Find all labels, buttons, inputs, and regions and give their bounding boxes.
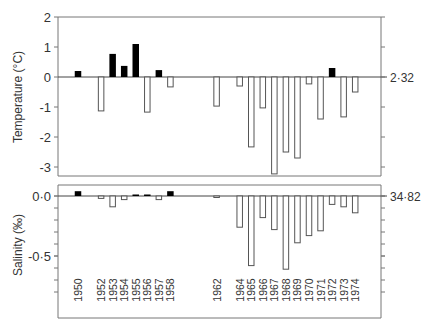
bar-positive-1955 <box>133 195 140 197</box>
bar-positive-1958 <box>167 191 174 196</box>
year-label-1970: 1970 <box>303 278 315 302</box>
bar-negative-1965 <box>249 196 255 266</box>
y-tick-label: -3 <box>39 160 51 175</box>
bar-negative-1954 <box>121 196 127 200</box>
y-tick-label: 0 <box>44 70 51 85</box>
bar-negative-1965 <box>249 77 255 147</box>
temperature-reference-value: 2·32 <box>390 71 414 85</box>
bar-negative-1956 <box>145 77 151 112</box>
bar-negative-1967 <box>272 196 278 230</box>
bar-negative-1973 <box>341 77 347 117</box>
bar-negative-1952 <box>98 196 104 198</box>
bar-negative-1972 <box>329 196 335 204</box>
bar-negative-1971 <box>318 77 324 119</box>
bar-negative-1952 <box>98 77 104 111</box>
y-tick-label: -0·5 <box>28 249 51 264</box>
bar-negative-1964 <box>237 77 243 86</box>
bar-positive-1955 <box>133 44 140 77</box>
y-tick-label: 2 <box>44 10 51 25</box>
bar-negative-1969 <box>295 196 301 243</box>
y-tick-label: -2 <box>39 130 51 145</box>
bar-negative-1964 <box>237 196 243 227</box>
bar-positive-1954 <box>121 66 128 77</box>
year-label-1958: 1958 <box>164 278 176 302</box>
bar-negative-1970 <box>306 77 312 84</box>
bar-negative-1953 <box>110 196 116 207</box>
salinity-axis-label: Salinity (‰) <box>11 214 25 276</box>
temperature-axis-label: Temperature (°C) <box>11 51 25 143</box>
bar-negative-1968 <box>283 77 289 152</box>
bar-negative-1970 <box>306 196 312 236</box>
bar-positive-1956 <box>144 195 151 197</box>
bar-negative-1966 <box>260 196 266 218</box>
salinity-reference-value: 34·82 <box>390 190 421 204</box>
bar-positive-1957 <box>156 70 163 77</box>
bar-positive-1950 <box>75 71 82 77</box>
year-label-1950: 1950 <box>72 278 84 302</box>
bar-negative-1962 <box>214 77 220 106</box>
year-label-1954: 1954 <box>118 278 130 302</box>
bar-negative-1967 <box>272 77 278 174</box>
chart: 210-1-2-3 0·0-0·519501952195319541955195… <box>0 0 435 333</box>
year-label-1965: 1965 <box>245 278 257 302</box>
year-label-1972: 1972 <box>326 278 338 302</box>
year-label-1962: 1962 <box>211 278 223 302</box>
bar-positive-1972 <box>329 68 336 77</box>
bar-negative-1962 <box>214 196 220 198</box>
bar-negative-1969 <box>295 77 301 158</box>
bar-positive-1953 <box>109 54 116 77</box>
y-tick-label: 0·0 <box>32 189 51 204</box>
salinity-panel: 0·0-0·5195019521953195419551956195719581… <box>28 185 387 318</box>
year-label-1971: 1971 <box>315 278 327 302</box>
year-label-1968: 1968 <box>280 278 292 302</box>
year-label-1964: 1964 <box>234 278 246 302</box>
year-label-1957: 1957 <box>153 278 165 302</box>
bar-negative-1974 <box>352 77 358 92</box>
bar-negative-1957 <box>156 196 162 200</box>
year-label-1953: 1953 <box>107 278 119 302</box>
year-label-1956: 1956 <box>141 278 153 302</box>
year-label-1974: 1974 <box>349 278 361 302</box>
bar-negative-1966 <box>260 77 266 108</box>
year-label-1952: 1952 <box>95 278 107 302</box>
year-label-1967: 1967 <box>268 278 280 302</box>
bar-negative-1971 <box>318 196 324 231</box>
bar-negative-1968 <box>283 196 289 269</box>
temperature-panel: 210-1-2-3 <box>39 10 387 177</box>
year-label-1955: 1955 <box>130 278 142 302</box>
bar-positive-1950 <box>75 191 82 196</box>
year-label-1969: 1969 <box>291 278 303 302</box>
y-tick-label: 1 <box>44 40 51 55</box>
y-tick-label: -1 <box>39 100 51 115</box>
bar-negative-1973 <box>341 196 347 207</box>
year-label-1966: 1966 <box>257 278 269 302</box>
year-label-1973: 1973 <box>338 278 350 302</box>
bar-negative-1974 <box>352 196 358 213</box>
bar-negative-1958 <box>168 77 174 87</box>
